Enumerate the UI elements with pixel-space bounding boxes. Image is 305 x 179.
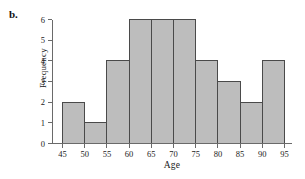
x-tick-label: 60 [125,149,134,159]
x-tick-label: 85 [236,149,245,159]
histogram-bar [218,82,240,144]
histogram-bar [174,20,196,144]
histogram-figure: b. Frequency Age 4550556065707580859095 … [0,0,305,179]
bars-group [63,20,285,144]
histogram-bar [262,61,284,144]
histogram-bar [107,61,129,144]
x-tick-label: 90 [258,149,267,159]
y-tick-label: 1 [41,118,45,128]
x-tick-label: 70 [169,149,178,159]
histogram-bar [240,102,262,143]
y-tick-label: 4 [41,56,46,66]
x-tick-label: 45 [58,149,67,159]
x-tick-label: 55 [103,149,112,159]
histogram-bar [63,102,85,143]
x-tick-group: 4550556065707580859095 [58,144,289,160]
histogram-bar [85,123,107,144]
y-tick-label: 2 [41,97,45,107]
histogram-bar [129,20,151,144]
y-tick-label: 3 [41,77,45,87]
histogram-bar [151,20,173,144]
histogram-plot-area: 4550556065707580859095 0123456 [0,0,305,179]
x-tick-label: 80 [214,149,223,159]
x-tick-label: 75 [191,149,200,159]
y-tick-group: 0123456 [41,15,52,149]
histogram-bar [196,61,218,144]
y-tick-label: 5 [41,35,45,45]
x-tick-label: 50 [80,149,89,159]
y-tick-label: 6 [41,15,45,25]
y-tick-label: 0 [41,139,45,149]
x-tick-label: 65 [147,149,156,159]
x-tick-label: 95 [280,149,289,159]
